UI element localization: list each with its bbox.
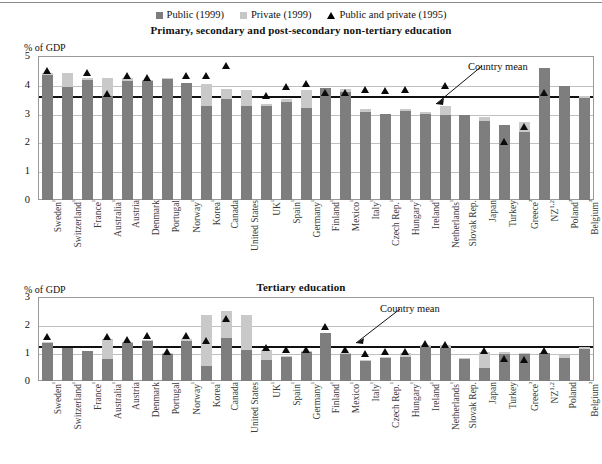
bar-group xyxy=(42,56,53,200)
marker-triangle-icon xyxy=(182,332,190,339)
bar-segment-public xyxy=(201,366,212,381)
bar-segment-public xyxy=(559,358,570,381)
marker-triangle-icon xyxy=(341,89,349,96)
chart-legend: Public (1999) Private (1999) Public and … xyxy=(0,9,602,21)
x-tick-label: Portugal xyxy=(171,200,181,232)
bar-segment-public xyxy=(459,115,470,200)
bar-segment-private xyxy=(201,84,212,106)
bar-segment-public xyxy=(340,92,351,200)
bottom-chart-plot xyxy=(38,297,594,381)
bar-segment-public xyxy=(420,347,431,381)
bar-segment-public xyxy=(82,80,93,200)
x-tick-label: Czech Rep.¹ xyxy=(389,200,401,246)
bar-segment-public xyxy=(380,114,391,200)
x-tick-label: Australia¹ xyxy=(111,382,123,419)
x-tick-label: Korea¹ xyxy=(210,200,222,225)
bar-segment-public xyxy=(162,79,173,200)
x-tick-label: Germany¹ xyxy=(310,382,322,419)
x-tick-label: Japan xyxy=(488,382,498,404)
bar-group xyxy=(221,56,232,200)
bar-segment-private xyxy=(340,353,351,354)
square-dark-icon xyxy=(156,12,163,19)
x-tick-label: Mexico¹ xyxy=(349,382,361,413)
top-chart-plot xyxy=(38,56,594,200)
x-tick-label: Switzerland¹ xyxy=(71,382,83,430)
bar-segment-public xyxy=(579,98,590,200)
marker-triangle-icon xyxy=(202,337,210,344)
bar-group xyxy=(559,56,570,200)
marker-triangle-icon xyxy=(421,340,429,347)
y-tick-label: 2 xyxy=(25,320,30,330)
y-tick-label: 4 xyxy=(25,80,30,90)
x-tick-label: Finland¹ xyxy=(329,200,341,231)
bar-group xyxy=(539,297,550,381)
marker-triangle-icon xyxy=(123,72,131,79)
x-tick-label: Canada xyxy=(230,200,240,229)
bottom-bars-layer xyxy=(38,297,594,381)
marker-triangle-icon xyxy=(520,356,528,363)
bar-segment-public xyxy=(360,112,371,200)
x-tick-label: Switzerland¹ xyxy=(71,200,83,248)
x-tick-label: Ireland¹ xyxy=(429,200,441,229)
bar-segment-private xyxy=(579,347,590,349)
marker-triangle-icon xyxy=(302,80,310,87)
bar-group xyxy=(301,56,312,200)
bar-segment-public xyxy=(221,99,232,200)
x-tick-label: United States xyxy=(250,382,260,433)
bar-segment-public xyxy=(102,359,113,381)
bar-segment-public xyxy=(360,361,371,381)
bar-segment-private xyxy=(479,117,490,121)
legend-item-public-private: Public and private (1995) xyxy=(327,9,446,21)
bar-segment-public xyxy=(281,356,292,381)
x-tick-label: Slovak Rep. xyxy=(468,200,478,246)
bar-group xyxy=(102,56,113,200)
marker-triangle-icon xyxy=(441,341,449,348)
bar-segment-private xyxy=(102,339,113,359)
bar-segment-public xyxy=(62,348,73,381)
bar-segment-private xyxy=(281,356,292,357)
bar-segment-public xyxy=(122,342,133,381)
bar-group xyxy=(62,56,73,200)
bar-segment-public xyxy=(499,125,510,200)
bar-segment-private xyxy=(579,96,590,97)
x-tick-label: Belgium² xyxy=(588,200,600,235)
marker-triangle-icon xyxy=(83,69,91,76)
bar-segment-private xyxy=(380,357,391,358)
x-tick-label: Sweden¹ xyxy=(51,200,63,232)
marker-triangle-icon xyxy=(143,74,151,81)
bottom-x-axis-labels: Sweden¹Switzerland¹France¹Australia¹Aust… xyxy=(38,382,594,446)
marker-triangle-icon xyxy=(540,89,548,96)
bar-group xyxy=(281,56,292,200)
x-tick-label: Korea¹ xyxy=(210,382,222,407)
bar-segment-public xyxy=(340,354,351,381)
bar-segment-public xyxy=(420,114,431,200)
bar-segment-public xyxy=(142,81,153,200)
square-light-icon xyxy=(240,12,247,19)
x-tick-label: Norway¹ xyxy=(190,200,202,233)
bar-group xyxy=(360,56,371,200)
x-tick-label: Canada xyxy=(230,382,240,411)
x-tick-label: Denmark xyxy=(151,200,161,235)
bar-segment-public xyxy=(281,102,292,200)
x-tick-label: Slovak Rep. xyxy=(468,382,478,428)
bar-segment-public xyxy=(459,359,470,381)
bar-segment-public xyxy=(579,349,590,381)
x-tick-label: Netherlands¹ xyxy=(449,382,461,430)
x-tick-label: United States xyxy=(250,200,260,251)
x-tick-label: Mexico¹ xyxy=(349,200,361,231)
y-tick-label: 1 xyxy=(25,166,30,176)
bar-segment-public xyxy=(479,368,490,381)
bar-segment-public xyxy=(479,121,490,200)
bar-group xyxy=(459,297,470,381)
x-tick-label: Greece² xyxy=(528,200,540,229)
x-tick-label: UK¹ xyxy=(270,382,282,398)
x-tick-label: Japan xyxy=(488,200,498,222)
bar-segment-public xyxy=(162,354,173,381)
bottom-axis-unit: % of GDP xyxy=(24,284,66,295)
bar-segment-public xyxy=(82,351,93,381)
x-tick-label: Italy¹ xyxy=(369,382,381,402)
marker-triangle-icon xyxy=(222,315,230,322)
marker-triangle-icon xyxy=(341,346,349,353)
marker-triangle-icon xyxy=(43,333,51,340)
x-tick-label: Turkey xyxy=(508,382,518,409)
